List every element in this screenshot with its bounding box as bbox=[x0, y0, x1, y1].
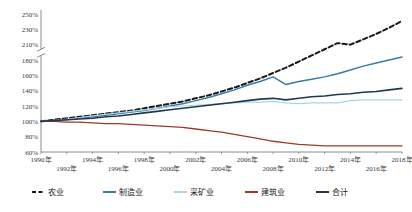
legend-label-制造业[interactable]: 制造业 bbox=[119, 187, 143, 197]
series-lines bbox=[41, 21, 402, 146]
x-tick-label: 1990年 bbox=[31, 155, 52, 164]
x-tick-label: 1992年 bbox=[56, 164, 77, 173]
legend-label-建筑业[interactable]: 建筑业 bbox=[261, 187, 285, 197]
x-tick-label: 2002年 bbox=[185, 155, 206, 164]
x-tick-label: 1998年 bbox=[134, 155, 155, 164]
line-chart: 250%230%210%180%160%140%120%100%80%60% 1… bbox=[0, 0, 412, 212]
x-tick-label: 1994年 bbox=[82, 155, 103, 164]
x-tick-label: 1996年 bbox=[108, 164, 129, 173]
y-tick-label: 210% bbox=[22, 41, 39, 49]
x-tick-label: 2010年 bbox=[288, 155, 309, 164]
series-line-制造业 bbox=[41, 57, 402, 121]
legend-label-农业[interactable]: 农业 bbox=[48, 187, 64, 197]
y-tick-label: 140% bbox=[22, 87, 39, 95]
x-tick-label: 2012年 bbox=[314, 164, 335, 173]
chart-legend: 农业制造业采矿业建筑业合计 bbox=[32, 187, 348, 197]
y-tick-label: 120% bbox=[22, 103, 39, 111]
series-line-建筑业 bbox=[41, 121, 402, 146]
x-tick-label: 2004年 bbox=[211, 164, 232, 173]
y-tick-label: 250% bbox=[22, 11, 39, 19]
y-axis: 250%230%210%180%160%140%120%100%80%60% bbox=[22, 10, 45, 157]
y-tick-label: 230% bbox=[22, 26, 39, 34]
x-tick-label: 2006年 bbox=[237, 155, 258, 164]
x-tick-label: 2018年 bbox=[392, 155, 412, 164]
y-tick-label: 160% bbox=[22, 72, 39, 80]
x-tick-label: 2016年 bbox=[366, 164, 387, 173]
x-axis: 1990年1994年1998年2002年2006年2010年2014年2018年… bbox=[31, 152, 412, 173]
legend-label-采矿业[interactable]: 采矿业 bbox=[190, 187, 214, 197]
y-tick-label: 80% bbox=[25, 133, 38, 141]
x-tick-label: 2014年 bbox=[340, 155, 361, 164]
x-tick-label: 2000年 bbox=[159, 164, 180, 173]
y-tick-label: 100% bbox=[22, 118, 39, 126]
y-tick-label: 180% bbox=[22, 57, 39, 65]
chart-container: 250%230%210%180%160%140%120%100%80%60% 1… bbox=[0, 0, 412, 212]
legend-label-合计[interactable]: 合计 bbox=[332, 187, 348, 197]
x-tick-label: 2008年 bbox=[263, 164, 284, 173]
